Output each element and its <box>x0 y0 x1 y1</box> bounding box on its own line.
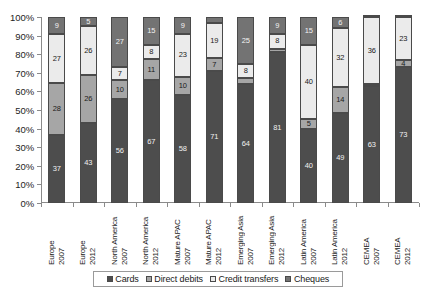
stacked-bar[interactable]: 734230 <box>395 17 412 203</box>
bar-segment-cheques[interactable]: 25 <box>237 17 254 64</box>
stacked-bar[interactable]: 5810239 <box>174 17 191 203</box>
segment-value-label: 5 <box>86 18 90 26</box>
y-axis-tick-label: 60% <box>15 86 34 97</box>
bar-segment-cheques[interactable]: 9 <box>269 17 286 34</box>
bar-segment-cards[interactable]: 81 <box>269 52 286 203</box>
bar-segment-direct-debits[interactable]: 10 <box>174 77 191 96</box>
stacked-bar[interactable]: 81289 <box>269 17 286 203</box>
stacked-bar[interactable]: 4914326 <box>332 17 349 203</box>
bar-segment-direct-debits[interactable]: 4 <box>395 60 412 67</box>
bar-group[interactable]: 734230 <box>395 17 412 203</box>
bar-segment-cards[interactable]: 58 <box>174 95 191 203</box>
segment-value-label: 8 <box>244 67 248 75</box>
bar-segment-direct-debits[interactable]: 7 <box>206 58 223 71</box>
x-axis-category-label: Europe2012 <box>73 205 105 265</box>
legend-label: Cards <box>115 274 139 284</box>
bar-segment-direct-debits[interactable]: 3 <box>237 78 254 84</box>
bar-segment-direct-debits[interactable]: 26 <box>80 75 97 123</box>
bar-segment-cards[interactable]: 49 <box>332 113 349 203</box>
bar-group[interactable]: 4054015 <box>300 17 317 203</box>
bar-segment-cards[interactable]: 43 <box>80 123 97 203</box>
bar-segment-credit-transfers[interactable]: 23 <box>395 17 412 60</box>
legend-item-direct-debits[interactable]: Direct debits <box>146 274 203 284</box>
x-axis-category-label: CEMEA2012 <box>388 205 420 265</box>
segment-value-label: 23 <box>399 35 407 43</box>
bar-segment-direct-debits[interactable]: 10 <box>111 80 128 99</box>
bar-group[interactable]: 631360 <box>363 17 380 203</box>
segment-value-label: 8 <box>149 48 153 56</box>
bar-segment-direct-debits[interactable]: 5 <box>300 119 317 128</box>
bar-segment-cards[interactable]: 64 <box>237 84 254 203</box>
bar-group[interactable]: 717193 <box>206 17 223 203</box>
bar-segment-credit-transfers[interactable]: 8 <box>269 34 286 49</box>
segment-value-label: 58 <box>179 145 187 153</box>
bar-segment-credit-transfers[interactable]: 27 <box>48 34 65 84</box>
bar-segment-cheques[interactable]: 6 <box>332 17 349 28</box>
segment-value-label: 0 <box>370 15 374 16</box>
bar-group[interactable]: 81289 <box>269 17 286 203</box>
legend-swatch-cheques <box>285 276 291 282</box>
bar-group[interactable]: 643825 <box>237 17 254 203</box>
x-label-region: Europe <box>79 205 87 265</box>
bar-segment-cheques[interactable]: 0 <box>363 15 380 17</box>
bar-segment-cheques[interactable]: 0 <box>395 15 412 17</box>
stacked-bar[interactable]: 643825 <box>237 17 254 203</box>
bar-segment-cheques[interactable]: 27 <box>111 17 128 67</box>
bar-segment-cards[interactable]: 56 <box>111 99 128 203</box>
segment-value-label: 49 <box>336 154 344 162</box>
legend-item-credit-transfers[interactable]: Credit transfers <box>210 274 278 284</box>
stacked-bar[interactable]: 5610727 <box>111 17 128 203</box>
x-label-region: Mature APAC <box>174 205 182 265</box>
bar-segment-cards[interactable]: 37 <box>48 135 65 203</box>
bar-group[interactable]: 5810239 <box>174 17 191 203</box>
stacked-bar[interactable]: 717193 <box>206 17 223 203</box>
bar-segment-cheques[interactable]: 5 <box>80 17 97 26</box>
x-axis-category-label: Emerging Asia2012 <box>262 205 294 265</box>
bar-segment-direct-debits[interactable]: 2 <box>269 49 286 53</box>
bar-segment-cards[interactable]: 71 <box>206 71 223 203</box>
y-axis-tick-mark <box>37 36 41 37</box>
bar-segment-cheques[interactable]: 15 <box>300 17 317 45</box>
bar-segment-cards[interactable]: 40 <box>300 129 317 203</box>
bar-segment-cheques[interactable]: 15 <box>143 17 160 45</box>
bar-segment-direct-debits[interactable]: 11 <box>143 59 160 79</box>
bar-segment-direct-debits[interactable]: 28 <box>48 83 65 135</box>
stacked-bar[interactable]: 631360 <box>363 17 380 203</box>
bar-segment-credit-transfers[interactable]: 23 <box>174 34 191 77</box>
bar-segment-direct-debits[interactable]: 1 <box>363 84 380 86</box>
bar-segment-direct-debits[interactable]: 14 <box>332 87 349 113</box>
bar-segment-cards[interactable]: 63 <box>363 86 380 203</box>
legend-label: Direct debits <box>154 274 203 284</box>
x-label-region: Mature APAC <box>205 205 213 265</box>
stacked-bar[interactable]: 4326265 <box>80 17 97 203</box>
bar-segment-cards[interactable]: 73 <box>395 67 412 203</box>
legend-item-cheques[interactable]: Cheques <box>285 274 329 284</box>
bar-segment-cheques[interactable]: 9 <box>48 17 65 34</box>
bar-segment-credit-transfers[interactable]: 26 <box>80 26 97 74</box>
segment-value-label: 3 <box>244 78 248 79</box>
stacked-bar[interactable]: 3728279 <box>48 17 65 203</box>
legend-item-cards[interactable]: Cards <box>107 274 139 284</box>
stacked-bar[interactable]: 4054015 <box>300 17 317 203</box>
stacked-bar[interactable]: 6711815 <box>143 17 160 203</box>
bar-segment-credit-transfers[interactable]: 40 <box>300 45 317 119</box>
bar-group[interactable]: 3728279 <box>48 17 65 203</box>
bar-segment-cheques[interactable]: 3 <box>206 17 223 23</box>
bar-segment-cheques[interactable]: 9 <box>174 17 191 34</box>
bar-segment-credit-transfers[interactable]: 19 <box>206 23 223 58</box>
bar-segment-cards[interactable]: 67 <box>143 80 160 203</box>
bar-segment-credit-transfers[interactable]: 36 <box>363 17 380 84</box>
bar-group[interactable]: 4914326 <box>332 17 349 203</box>
bar-group[interactable]: 6711815 <box>143 17 160 203</box>
bar-segment-credit-transfers[interactable]: 8 <box>143 45 160 60</box>
x-label-year: 2007 <box>121 205 129 265</box>
bar-segment-credit-transfers[interactable]: 8 <box>237 64 254 79</box>
bar-group[interactable]: 4326265 <box>80 17 97 203</box>
bar-segment-credit-transfers[interactable]: 7 <box>111 67 128 80</box>
bar-group[interactable]: 5610727 <box>111 17 128 203</box>
bar-segment-credit-transfers[interactable]: 32 <box>332 28 349 87</box>
x-label-region: CEMEA <box>363 205 371 265</box>
segment-value-label: 7 <box>118 70 122 78</box>
legend-label: Credit transfers <box>218 274 278 284</box>
segment-value-label: 56 <box>116 147 124 155</box>
